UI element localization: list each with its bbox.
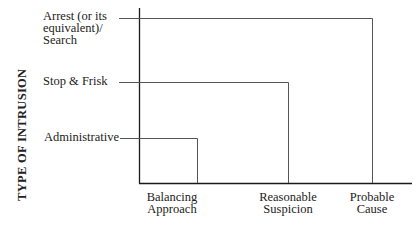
level-label-administrative: Administrative — [44, 131, 119, 143]
x-category-line: Approach — [127, 203, 217, 215]
level-label-line: Search — [43, 34, 107, 46]
level-label-line: Administrative — [44, 131, 119, 143]
x-category-reasonable-suspicion: Reasonable Suspicion — [243, 191, 333, 215]
level-label-arrest: Arrest (or its equivalent)/ Search — [43, 10, 107, 46]
x-category-line: Cause — [327, 203, 416, 215]
x-category-line: Suspicion — [243, 203, 333, 215]
level-label-stop-frisk: Stop & Frisk — [43, 75, 108, 87]
x-category-balancing-approach: Balancing Approach — [127, 191, 217, 215]
level-label-line: Stop & Frisk — [43, 75, 108, 87]
y-axis-label: TYPE OF INTRUSION — [15, 69, 30, 201]
x-category-probable-cause: Probable Cause — [327, 191, 416, 215]
